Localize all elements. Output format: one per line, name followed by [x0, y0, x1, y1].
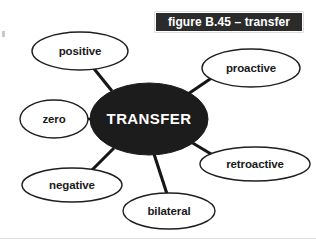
node-zero[interactable]: zero: [20, 100, 88, 138]
radial-diagram: positive proactive zero retroactive nega…: [0, 0, 316, 246]
figure-title-text: figure B.45 – transfer: [168, 16, 290, 28]
scan-artifact-left-edge: [2, 31, 5, 37]
node-bilateral[interactable]: bilateral: [123, 193, 215, 229]
hub-label: TRANSFER: [107, 110, 192, 127]
node-proactive-label: proactive: [226, 62, 276, 74]
node-bilateral-label: bilateral: [147, 205, 190, 217]
node-retroactive-label: retroactive: [226, 158, 284, 170]
figure-title-banner: figure B.45 – transfer: [155, 12, 303, 32]
scan-artifact-bottom-edge: [0, 238, 316, 239]
node-positive-label: positive: [59, 45, 102, 57]
connector-bilateral: [154, 154, 167, 194]
node-negative-label: negative: [49, 179, 95, 191]
node-retroactive[interactable]: retroactive: [200, 147, 310, 181]
hub-node-transfer[interactable]: TRANSFER: [90, 83, 208, 155]
node-proactive[interactable]: proactive: [202, 49, 300, 87]
node-positive[interactable]: positive: [32, 32, 128, 70]
connector-negative: [92, 148, 114, 170]
figure-container: positive proactive zero retroactive nega…: [0, 0, 316, 246]
node-zero-label: zero: [42, 113, 65, 125]
node-negative[interactable]: negative: [22, 168, 122, 202]
